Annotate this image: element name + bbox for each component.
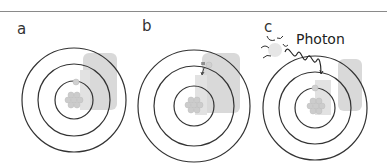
panel-a: a [0, 0, 129, 168]
photon-wave-icon [285, 49, 321, 72]
electron-icon [206, 62, 212, 68]
electron-icon [312, 85, 318, 91]
shadow-block [338, 59, 362, 111]
atom-a-graphic [0, 0, 129, 168]
atom-b-graphic [125, 0, 255, 168]
sun-source-icon [261, 36, 288, 58]
panel-b: b [125, 0, 254, 168]
electron-icon [73, 79, 79, 85]
panel-c: c Photon [255, 0, 387, 168]
atom-c-graphic [255, 0, 387, 168]
